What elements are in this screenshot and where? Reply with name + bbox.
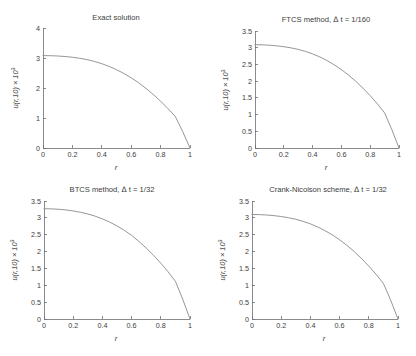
x-tick-label: 0.6	[335, 321, 345, 330]
svg-text:u(r,10) × 103: u(r,10) × 103	[217, 239, 227, 280]
x-tick-label: 0.2	[276, 321, 286, 330]
y-axis-label-exp-btcs: 3	[9, 239, 15, 242]
x-ticks: 00.20.40.60.81	[41, 145, 192, 159]
subplot-btcs-method: BTCS method, Δ t = 1/32 00.511.522.533.5…	[0, 178, 208, 356]
plot-area-btcs: 00.511.522.533.5 00.20.40.60.81	[31, 197, 192, 330]
x-tick-label: 1	[188, 321, 192, 330]
panel-title-exact: Exact solution	[92, 13, 139, 22]
panel-title-ftcs-prefix: FTCS method,	[282, 15, 333, 24]
y-axis-label-text-exact: u(r,10) × 10	[11, 70, 20, 109]
panel-title-cn-suffix: t = 1/32	[359, 185, 387, 194]
panel-title-btcs-suffix: t = 1/32	[127, 185, 155, 194]
x-axis-label-btcs: r	[115, 334, 118, 343]
x-tick-label: 0	[250, 321, 254, 330]
y-tick-label: 1	[245, 281, 249, 290]
svg-text:u(r,10) × 103: u(r,10) × 103	[220, 69, 230, 110]
x-tick-label: 0.6	[126, 150, 136, 159]
y-tick-label: 2	[245, 247, 249, 256]
y-tick-label: 1.5	[31, 264, 41, 273]
data-curve-exact	[43, 56, 190, 148]
y-axis-label-btcs: u(r,10) × 103	[9, 239, 19, 280]
y-ticks: 01234	[36, 24, 46, 153]
y-axis-label-exp-exact: 3	[10, 67, 16, 70]
x-tick-label: 1	[188, 150, 192, 159]
x-tick-label: 0.4	[305, 321, 315, 330]
y-ticks: 00.511.522.533.5	[242, 27, 258, 153]
x-tick-label: 0	[41, 150, 45, 159]
x-ticks: 00.20.40.60.81	[253, 145, 401, 159]
svg-text:u(r,10) × 103: u(r,10) × 103	[10, 67, 20, 108]
x-axis-label-crank-nicolson: r	[323, 334, 326, 343]
y-ticks: 00.511.522.533.5	[239, 197, 255, 324]
plot-svg-exact: Exact solution 01234 00.20.40.60.81 r u(…	[0, 0, 208, 178]
subplot-exact-solution: Exact solution 01234 00.20.40.60.81 r u(…	[0, 0, 208, 178]
y-tick-label: 2.5	[242, 60, 252, 69]
y-axis-label-exp-cn: 3	[217, 239, 223, 242]
x-tick-label: 0.4	[97, 150, 107, 159]
data-curve-ftcs	[255, 45, 399, 148]
x-tick-label: 0.8	[364, 321, 374, 330]
x-tick-label: 0	[253, 150, 257, 159]
y-tick-label: 1.5	[239, 264, 249, 273]
y-tick-label: 2.5	[239, 230, 249, 239]
plot-area-crank-nicolson: 00.511.522.533.5 00.20.40.60.81	[239, 197, 400, 330]
y-tick-label: 1.5	[242, 93, 252, 102]
y-tick-label: 2	[36, 84, 40, 93]
x-tick-label: 0.8	[365, 150, 375, 159]
y-tick-label: 2	[37, 247, 41, 256]
data-curve-crank-nicolson	[252, 214, 398, 319]
x-tick-label: 0.2	[279, 150, 289, 159]
y-axis-label-text-btcs: u(r,10) × 10	[10, 242, 19, 281]
x-tick-label: 0.2	[67, 150, 77, 159]
y-tick-label: 3	[245, 213, 249, 222]
x-tick-label: 0.2	[68, 321, 78, 330]
y-tick-label: 0.5	[31, 298, 41, 307]
panel-title-crank-nicolson: Crank-Nicolson scheme, Δ t = 1/32	[269, 185, 387, 194]
y-tick-label: 3.5	[31, 197, 41, 206]
y-tick-label: 3	[37, 213, 41, 222]
y-tick-label: 0	[248, 144, 252, 153]
y-tick-label: 2	[248, 77, 252, 86]
plot-area-exact: 01234 00.20.40.60.81	[36, 24, 192, 159]
y-tick-label: 0.5	[239, 298, 249, 307]
y-axis-label-crank-nicolson: u(r,10) × 103	[217, 239, 227, 280]
y-axis-label-exact: u(r,10) × 103	[10, 67, 20, 108]
plot-svg-ftcs: FTCS method, Δ t = 1/160 00.511.522.533.…	[208, 0, 416, 178]
x-axis-label-exact: r	[115, 163, 118, 172]
x-tick-label: 0	[42, 321, 46, 330]
y-tick-label: 0	[245, 315, 249, 324]
svg-text:u(r,10) × 103: u(r,10) × 103	[9, 239, 19, 280]
y-tick-label: 0	[37, 315, 41, 324]
y-tick-label: 1	[36, 114, 40, 123]
y-tick-label: 3.5	[242, 27, 252, 36]
y-tick-label: 0.5	[242, 127, 252, 136]
y-tick-label: 3.5	[239, 197, 249, 206]
y-tick-label: 1	[37, 281, 41, 290]
data-curve-btcs	[44, 209, 190, 319]
y-tick-label: 2.5	[31, 230, 41, 239]
x-ticks: 00.20.40.60.81	[42, 316, 192, 330]
y-axis-label-ftcs: u(r,10) × 103	[220, 69, 230, 110]
panel-title-ftcs: FTCS method, Δ t = 1/160	[282, 15, 371, 24]
plot-area-ftcs: 00.511.522.533.5 00.20.40.60.81	[242, 27, 401, 159]
y-axis-label-text-cn: u(r,10) × 10	[218, 242, 227, 281]
y-tick-label: 4	[36, 24, 40, 33]
x-tick-label: 0.4	[97, 321, 107, 330]
x-tick-label: 1	[397, 150, 401, 159]
subplot-ftcs-method: FTCS method, Δ t = 1/160 00.511.522.533.…	[208, 0, 416, 178]
y-axis-label-text-ftcs: u(r,10) × 10	[221, 72, 230, 111]
x-tick-label: 1	[396, 321, 400, 330]
y-tick-label: 0	[36, 144, 40, 153]
x-tick-label: 0.8	[156, 321, 166, 330]
plot-svg-btcs: BTCS method, Δ t = 1/32 00.511.522.533.5…	[0, 178, 208, 356]
y-ticks: 00.511.522.533.5	[31, 197, 47, 324]
x-tick-label: 0.4	[308, 150, 318, 159]
subplot-crank-nicolson: Crank-Nicolson scheme, Δ t = 1/32 00.511…	[208, 178, 416, 356]
x-axis-label-ftcs: r	[325, 163, 328, 172]
panel-title-btcs: BTCS method, Δ t = 1/32	[70, 185, 155, 194]
panel-title-btcs-prefix: BTCS method,	[70, 185, 122, 194]
figure-canvas: Exact solution 01234 00.20.40.60.81 r u(…	[0, 0, 416, 356]
y-axis-label-exp-ftcs: 3	[220, 69, 226, 72]
x-tick-label: 0.6	[336, 150, 346, 159]
panel-title-cn-prefix: Crank-Nicolson scheme,	[269, 185, 354, 194]
